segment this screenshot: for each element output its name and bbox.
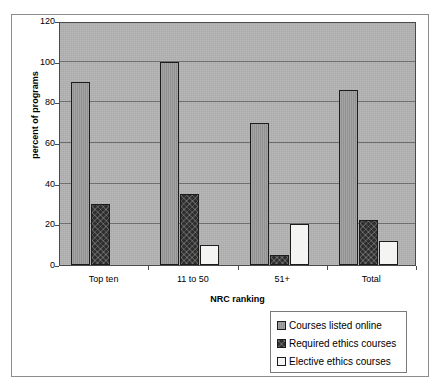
legend-item-label: Courses listed online <box>289 320 382 331</box>
y-axis-tick-label: 20 <box>45 220 55 229</box>
legend-swatch-required-ethics <box>277 339 286 348</box>
bar <box>379 241 398 265</box>
y-axis-tick-label: 100 <box>40 58 55 67</box>
legend-item: Courses listed online <box>277 316 401 334</box>
x-axis-tick-mark <box>327 266 328 270</box>
y-axis-tick-labels: 020406080100120 <box>26 22 55 266</box>
bar <box>359 220 378 265</box>
legend-item: Required ethics courses <box>277 334 401 352</box>
chart-legend: Courses listed onlineRequired ethics cou… <box>270 311 407 373</box>
bar <box>200 245 219 265</box>
x-axis-tick-mark <box>238 266 239 270</box>
plot-area <box>59 22 416 266</box>
y-axis-tick-label: 120 <box>40 17 55 26</box>
bar <box>290 224 309 265</box>
bar <box>339 90 358 265</box>
legend-item-label: Required ethics courses <box>289 338 396 349</box>
gridline <box>60 101 415 102</box>
gridline <box>60 61 415 62</box>
y-axis-tick-label: 80 <box>45 98 55 107</box>
x-axis-category-label: Top ten <box>59 274 148 284</box>
legend-item-label: Elective ethics courses <box>289 356 391 367</box>
bar <box>91 204 110 265</box>
gridline <box>60 142 415 143</box>
x-axis-category-label: 51+ <box>238 274 327 284</box>
bar <box>250 123 269 265</box>
gridline <box>60 183 415 184</box>
legend-swatch-elective-ethics <box>277 357 286 366</box>
y-axis-tick-mark <box>55 266 59 267</box>
x-axis-tick-mark <box>148 266 149 270</box>
legend-item: Elective ethics courses <box>277 352 401 370</box>
y-axis-tick-label: 60 <box>45 139 55 148</box>
bar <box>180 194 199 265</box>
bar <box>71 82 90 265</box>
y-axis-tick-label: 40 <box>45 180 55 189</box>
bar <box>270 255 289 265</box>
chart-frame: percent of programs 020406080100120 Top … <box>11 14 429 377</box>
bar <box>160 62 179 265</box>
x-axis-category-label: 11 to 50 <box>148 274 237 284</box>
x-axis-tick-mark <box>416 266 417 270</box>
x-axis-category-label: Total <box>327 274 416 284</box>
x-axis-title: NRC ranking <box>59 294 416 304</box>
legend-swatch-courses-online <box>277 321 286 330</box>
